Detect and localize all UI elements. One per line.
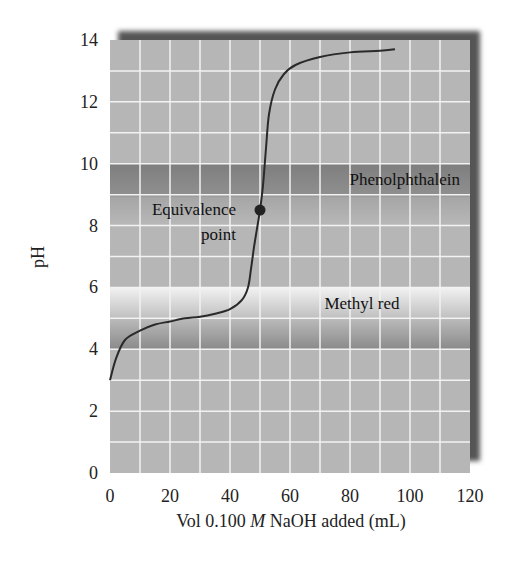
- y-axis-label: pH: [28, 246, 48, 268]
- y-tick-label: 6: [89, 277, 98, 297]
- y-tick-label: 2: [89, 401, 98, 421]
- titration-chart: Phenolphthalein Methyl red Equivalence p…: [0, 0, 516, 561]
- x-tick-label: 100: [397, 486, 424, 506]
- x-tick-label: 80: [341, 486, 359, 506]
- x-axis-label: Vol 0.100 M NaOH added (mL): [176, 511, 406, 532]
- y-tick-label: 4: [89, 339, 98, 359]
- y-axis-ticks: 02468101214: [80, 30, 98, 483]
- equivalence-label-line1: Equivalence: [152, 200, 236, 219]
- equivalence-label-line2: point: [201, 225, 236, 244]
- x-tick-label: 40: [221, 486, 239, 506]
- x-tick-label: 60: [281, 486, 299, 506]
- y-tick-label: 0: [89, 463, 98, 483]
- y-tick-label: 8: [89, 216, 98, 236]
- x-axis-ticks: 020406080100120: [106, 486, 484, 506]
- y-tick-label: 14: [80, 30, 98, 50]
- x-tick-label: 20: [161, 486, 179, 506]
- x-tick-label: 0: [106, 486, 115, 506]
- y-tick-label: 10: [80, 154, 98, 174]
- equivalence-point-marker: [255, 205, 266, 216]
- y-tick-label: 12: [80, 92, 98, 112]
- methyl-red-label: Methyl red: [324, 294, 400, 313]
- phenolphthalein-label: Phenolphthalein: [350, 170, 461, 189]
- x-tick-label: 120: [457, 486, 484, 506]
